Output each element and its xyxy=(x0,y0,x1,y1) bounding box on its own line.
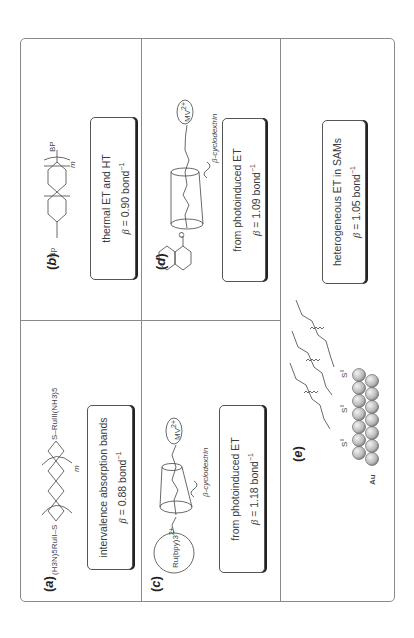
divider-vertical-2 xyxy=(280,39,281,602)
structure-c-acceptor: MV2+ xyxy=(170,420,182,440)
result-box-e-text: heterogeneous ET in SAMs β = 1.05 bond−1 xyxy=(330,120,364,284)
panel-label-c: (c) xyxy=(148,576,163,592)
structure-b-right-group: BP xyxy=(48,141,57,152)
structure-d-acceptor: MV2+ xyxy=(180,102,192,122)
result-box-c-text: from photoinduced ET β = 1.18 bond−1 xyxy=(228,405,262,573)
beta-d: β = 1.09 bond−1 xyxy=(245,118,264,282)
result-box-a: intervalence absorption bands β = 0.88 b… xyxy=(87,405,133,570)
result-box-c: from photoinduced ET β = 1.18 bond−1 xyxy=(219,405,265,573)
description-b: thermal ET and HT xyxy=(99,117,114,280)
structure-a-left-group: (H3N)5RuII–S xyxy=(50,525,59,575)
structure-a-right-group: S–RuIII(NH3)5 xyxy=(50,388,59,440)
description-a: intervalence absorption bands xyxy=(96,405,111,570)
beta-c: β = 1.18 bond−1 xyxy=(243,405,262,573)
result-box-e: heterogeneous ET in SAMs β = 1.05 bond−1 xyxy=(322,120,366,284)
description-c: from photoinduced ET xyxy=(228,405,243,573)
structure-b-repeat: m xyxy=(68,161,77,168)
structure-a-spiro-chain xyxy=(38,425,78,525)
beta-a: β = 0.88 bond−1 xyxy=(111,405,130,570)
result-box-a-text: intervalence absorption bands β = 0.88 b… xyxy=(96,405,130,570)
structure-a-repeat: m xyxy=(72,465,81,472)
result-box-d: from photoinduced ET β = 1.09 bond−1 xyxy=(222,118,266,282)
result-box-d-text: from photoinduced ET β = 1.09 bond−1 xyxy=(230,118,264,282)
result-box-b: thermal ET and HT β = 0.90 bond−1 xyxy=(90,117,136,280)
divider-horizontal xyxy=(21,320,280,321)
structure-d-linker-atom: O xyxy=(177,232,186,238)
description-e: heterogeneous ET in SAMs xyxy=(330,120,345,284)
result-box-b-text: thermal ET and HT β = 0.90 bond−1 xyxy=(99,117,133,280)
surface-label-au: Au xyxy=(368,474,377,485)
structure-c-host-label: β-cyclodextrin xyxy=(201,448,210,497)
panel-label-a: (a) xyxy=(41,576,56,592)
structure-b-bicyclo xyxy=(40,130,80,250)
beta-b: β = 0.90 bond−1 xyxy=(114,117,133,280)
structure-d-host-label: β-cyclodextrin xyxy=(210,114,219,163)
beta-e: β = 1.05 bond−1 xyxy=(345,120,364,284)
structure-c-donor: Ru(bpy)32+ xyxy=(168,527,180,568)
gold-surface-spheres xyxy=(347,368,387,468)
structure-c-rubpy-cyclodextrin xyxy=(152,415,222,575)
description-d: from photoinduced ET xyxy=(230,118,245,282)
structure-b-left-group: Np xyxy=(48,248,57,258)
